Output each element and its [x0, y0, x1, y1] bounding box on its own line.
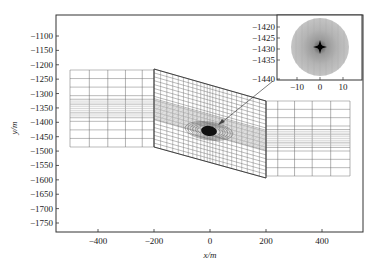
- y-axis-ticks: −1100−1150−1200−1250−1300−1350−1400−1450…: [30, 31, 59, 228]
- y-tick-label: −1450: [30, 132, 54, 142]
- inset-y-tick-label: −1440: [252, 74, 276, 84]
- inset-x-tick-label: 0: [318, 82, 323, 92]
- x-axis-label: x/m: [203, 250, 217, 260]
- inset-y-tick-label: −1430: [252, 44, 276, 54]
- inset-y-ticks: −1420−1425−1430−1435−1440: [252, 22, 280, 84]
- y-tick-label: −1200: [30, 60, 54, 70]
- y-tick-label: −1600: [30, 175, 54, 185]
- y-tick-label: −1350: [30, 103, 54, 113]
- inset-y-tick-label: −1435: [252, 55, 276, 65]
- y-tick-label: −1500: [30, 146, 54, 156]
- inset-x-tick-label: 10: [339, 82, 349, 92]
- x-tick-label: −400: [89, 236, 108, 246]
- inset-y-tick-label: −1425: [252, 33, 276, 43]
- chart-canvas: −400−2000200400 −1100−1150−1200−1250−130…: [0, 0, 376, 273]
- y-tick-label: −1100: [30, 31, 53, 41]
- inset-x-tick-label: −10: [290, 82, 305, 92]
- y-axis-label: y/m: [9, 121, 19, 135]
- y-tick-label: −1700: [30, 204, 54, 214]
- y-tick-label: −1550: [30, 160, 54, 170]
- inset-zoom: −1420−1425−1430−1435−1440 −10010: [252, 15, 362, 92]
- y-tick-label: −1150: [30, 45, 53, 55]
- y-tick-label: −1650: [30, 189, 54, 199]
- x-tick-label: −200: [145, 236, 164, 246]
- inset-y-tick-label: −1420: [252, 22, 276, 32]
- x-tick-label: 0: [208, 236, 213, 246]
- x-tick-label: 400: [315, 236, 329, 246]
- y-tick-label: −1300: [30, 89, 54, 99]
- y-tick-label: −1750: [30, 218, 54, 228]
- y-tick-label: −1250: [30, 74, 54, 84]
- y-tick-label: −1400: [30, 117, 54, 127]
- x-tick-label: 200: [259, 236, 273, 246]
